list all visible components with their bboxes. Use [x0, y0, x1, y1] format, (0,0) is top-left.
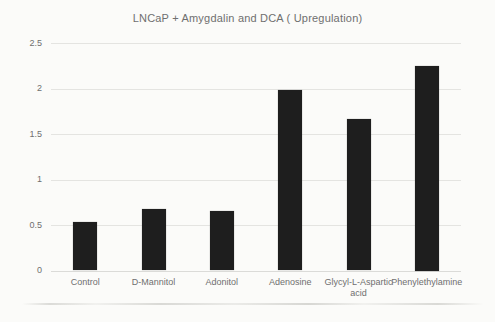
y-axis-tick-label: 0: [0, 265, 42, 275]
y-gridline: [51, 43, 461, 44]
y-gridline: [51, 271, 461, 272]
x-axis-category-label: D-Mannitol: [132, 277, 176, 288]
bar-chart: LNCaP + Amygdalin and DCA ( Upregulation…: [0, 0, 495, 322]
y-axis-tick-label: 2.5: [0, 38, 42, 48]
bar: [210, 211, 234, 270]
y-gridline: [51, 89, 461, 90]
y-gridline: [51, 134, 461, 135]
x-axis-category-label: Adonitol: [206, 277, 239, 288]
y-axis-tick-label: 1.5: [0, 129, 42, 139]
x-axis-category-label: Adenosine: [269, 277, 312, 288]
x-axis-category-label: Control: [71, 277, 100, 288]
y-axis-tick-label: 1: [0, 174, 42, 184]
bar: [415, 66, 439, 271]
chart-title: LNCaP + Amygdalin and DCA ( Upregulation…: [0, 12, 495, 24]
bar: [142, 209, 166, 271]
page-crease-artifact: [22, 303, 484, 305]
bar: [347, 119, 371, 271]
y-axis-tick-label: 2: [0, 83, 42, 93]
bar: [278, 90, 302, 270]
y-gridline: [51, 225, 461, 226]
x-axis-category-label: Phenylethylamine: [391, 277, 462, 288]
y-axis-tick-label: 0.5: [0, 220, 42, 230]
x-axis-category-label: Glycyl-L-Aspartic acid: [321, 277, 397, 299]
y-gridline: [51, 180, 461, 181]
bar: [73, 222, 97, 270]
